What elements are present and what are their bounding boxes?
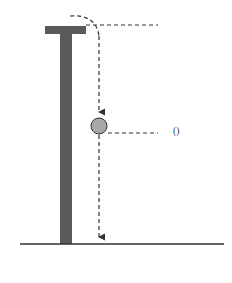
tower-top-beam	[45, 26, 86, 34]
tower	[45, 26, 86, 244]
falling-object-diagram	[0, 0, 232, 283]
label-s-of-t: ()	[173, 126, 179, 136]
tower-pole	[60, 33, 72, 244]
falling-ball	[91, 118, 107, 134]
